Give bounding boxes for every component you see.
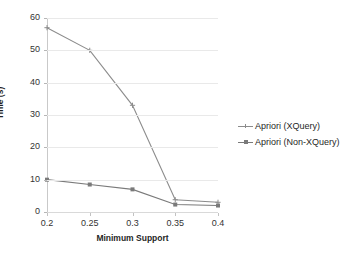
y-axis-tick-label: 10 bbox=[14, 175, 40, 184]
x-axis-tick-label: 0.35 bbox=[155, 218, 195, 228]
y-axis-tick-mark bbox=[44, 180, 47, 181]
gridline bbox=[47, 18, 218, 19]
legend-swatch-icon bbox=[238, 121, 253, 131]
x-axis-tick-mark bbox=[175, 213, 176, 216]
x-axis-tick-mark bbox=[133, 213, 134, 216]
legend-item-label: Apriori (Non-XQuery) bbox=[255, 137, 340, 147]
legend-item[interactable]: Apriori (Non-XQuery) bbox=[238, 134, 356, 150]
x-axis-tick-mark bbox=[47, 213, 48, 216]
y-axis-tick-label: 60 bbox=[14, 13, 40, 22]
y-axis-tick-label: 0 bbox=[14, 207, 40, 216]
x-axis-tick-labels: 0.20.250.30.350.4 bbox=[0, 218, 359, 232]
data-point-marker bbox=[216, 204, 220, 208]
y-axis-tick-mark bbox=[44, 18, 47, 19]
y-axis-tick-mark bbox=[44, 115, 47, 116]
y-axis-tick-mark bbox=[44, 83, 47, 84]
gridline bbox=[47, 147, 218, 148]
plot-area bbox=[47, 18, 218, 212]
gridline bbox=[47, 115, 218, 116]
gridline bbox=[47, 50, 218, 51]
y-axis-tick-label: 30 bbox=[14, 110, 40, 119]
gridline bbox=[47, 83, 218, 84]
x-axis-tick-label: 0.2 bbox=[27, 218, 67, 228]
legend-swatch-icon bbox=[238, 137, 253, 147]
chart-legend: Apriori (XQuery)Apriori (Non-XQuery) bbox=[238, 118, 356, 150]
x-axis-tick-label: 0.3 bbox=[113, 218, 153, 228]
data-point-marker bbox=[173, 203, 177, 207]
y-axis-tick-label: 20 bbox=[14, 142, 40, 151]
y-axis-tick-mark bbox=[44, 147, 47, 148]
x-axis-tick-label: 0.4 bbox=[198, 218, 238, 228]
x-axis-tick-mark bbox=[218, 213, 219, 216]
data-point-marker bbox=[44, 25, 49, 30]
y-axis-tick-label: 40 bbox=[14, 78, 40, 87]
x-axis-title: Minimum Support bbox=[47, 233, 218, 243]
series-line bbox=[47, 180, 218, 206]
x-axis-tick-mark bbox=[90, 213, 91, 216]
y-axis-tick-label: 50 bbox=[14, 45, 40, 54]
y-axis-title: Time (s) bbox=[0, 87, 5, 119]
data-point-marker bbox=[173, 197, 178, 202]
legend-item-label: Apriori (XQuery) bbox=[255, 121, 320, 131]
y-axis-tick-mark bbox=[44, 50, 47, 51]
data-point-marker bbox=[88, 183, 92, 187]
data-point-marker bbox=[131, 187, 135, 191]
legend-item[interactable]: Apriori (XQuery) bbox=[238, 118, 356, 134]
chart-title-cropped bbox=[0, 0, 359, 7]
line-chart: Time (s) 0102030405060 0.20.250.30.350.4… bbox=[0, 0, 359, 257]
gridline bbox=[47, 180, 218, 181]
x-axis-tick-label: 0.25 bbox=[70, 218, 110, 228]
